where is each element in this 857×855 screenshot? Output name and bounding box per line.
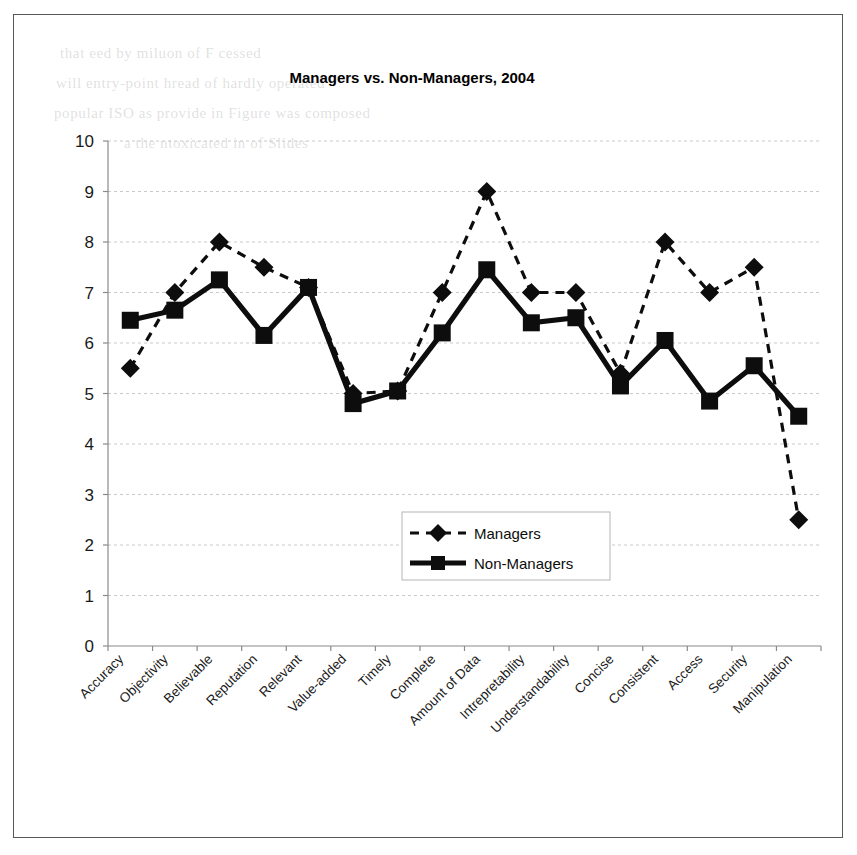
data-point-marker-diamond (789, 510, 808, 529)
data-point-marker-diamond (522, 283, 541, 302)
data-point-marker-square (122, 312, 139, 329)
line-chart: Managers vs. Non-Managers, 2004 01234567… (14, 15, 844, 839)
data-point-marker-square (701, 393, 718, 410)
data-point-marker-square (657, 332, 674, 349)
data-point-marker-square (523, 314, 540, 331)
legend-entry-non-managers[interactable]: Non-Managers (410, 555, 573, 572)
y-axis-tick-label: 8 (85, 233, 94, 252)
x-axis-tick-marks (108, 646, 821, 651)
data-point-marker-square (255, 327, 272, 344)
data-point-marker-square (746, 357, 763, 374)
data-point-marker-diamond (745, 258, 764, 277)
y-axis-tick-marks (103, 141, 108, 646)
data-point-marker-square (790, 408, 807, 425)
y-axis-tick-label: 9 (85, 183, 94, 202)
data-point-marker-square (567, 309, 584, 326)
y-axis-tick-label: 7 (85, 284, 94, 303)
data-point-marker-diamond (254, 258, 273, 277)
data-point-marker-diamond (433, 283, 452, 302)
y-axis-tick-label: 10 (75, 132, 94, 151)
chart-legend[interactable]: Managers Non-Managers (402, 512, 610, 580)
y-axis-tick-label: 3 (85, 486, 94, 505)
legend-marker-square-icon (431, 556, 445, 570)
series-line-managers (130, 192, 798, 520)
x-axis-category-label: Understandability (488, 651, 573, 736)
y-axis-tick-labels: 012345678910 (75, 132, 94, 656)
legend-label-managers: Managers (474, 525, 541, 542)
data-point-marker-square (434, 324, 451, 341)
y-axis-tick-label: 4 (85, 435, 94, 454)
y-axis-tick-label: 5 (85, 385, 94, 404)
y-axis-tick-label: 1 (85, 587, 94, 606)
legend-label-non-managers: Non-Managers (474, 555, 573, 572)
x-axis-category-label: Concise (571, 652, 616, 697)
data-point-marker-square (166, 302, 183, 319)
x-axis-category-label: Security (705, 651, 750, 696)
y-axis-tick-label: 6 (85, 334, 94, 353)
x-axis-category-label: Access (664, 651, 706, 693)
series-markers-managers (121, 182, 808, 529)
y-axis-tick-label: 0 (85, 637, 94, 656)
data-point-marker-diamond (477, 182, 496, 201)
data-point-marker-diamond (566, 283, 585, 302)
chart-title: Managers vs. Non-Managers, 2004 (289, 69, 535, 86)
data-point-marker-diamond (121, 359, 140, 378)
chart-figure-frame: that eed by miluon of F cessed will entr… (13, 14, 843, 838)
x-axis-category-label: Timely (355, 651, 394, 690)
data-point-marker-square (211, 271, 228, 288)
y-axis-tick-label: 2 (85, 536, 94, 555)
data-point-marker-square (478, 261, 495, 278)
x-axis-category-labels: AccuracyObjectivityBelievableReputationR… (77, 651, 795, 736)
